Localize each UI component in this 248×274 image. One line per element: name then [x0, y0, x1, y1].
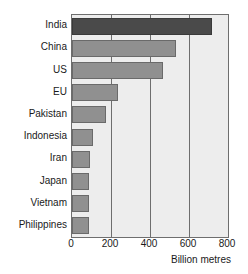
- bar-chart: IndiaChinaUSEUPakistanIndonesiaIranJapan…: [0, 0, 248, 274]
- bar: [72, 40, 176, 57]
- x-tick-label: 0: [68, 238, 74, 250]
- category-label: Japan: [0, 175, 67, 186]
- value-axis-labels: 0200400600800: [0, 238, 248, 252]
- category-axis-labels: IndiaChinaUSEUPakistanIndonesiaIranJapan…: [0, 14, 67, 236]
- x-axis-title: Billion metres: [0, 254, 231, 266]
- x-tick-label: 800: [219, 238, 236, 250]
- bar: [72, 195, 89, 212]
- bar-slot: [72, 170, 228, 192]
- bar-slot: [72, 82, 228, 104]
- category-label: China: [0, 41, 67, 52]
- bar: [72, 84, 118, 101]
- category-label: Philippines: [0, 219, 67, 230]
- x-tick-label: 200: [102, 238, 119, 250]
- bars-layer: [72, 15, 228, 237]
- bar-slot: [72, 15, 228, 37]
- bar: [72, 217, 89, 234]
- bar-slot: [72, 193, 228, 215]
- bar-slot: [72, 148, 228, 170]
- category-label: EU: [0, 86, 67, 97]
- category-label: Pakistan: [0, 108, 67, 119]
- category-label: India: [0, 19, 67, 30]
- bar: [72, 151, 90, 168]
- bar-slot: [72, 59, 228, 81]
- bar-slot: [72, 126, 228, 148]
- bar: [72, 18, 212, 35]
- bar: [72, 129, 93, 146]
- bar-slot: [72, 215, 228, 237]
- x-tick-label: 400: [141, 238, 158, 250]
- bar: [72, 173, 89, 190]
- bar: [72, 106, 106, 123]
- bar-slot: [72, 37, 228, 59]
- category-label: Iran: [0, 152, 67, 163]
- category-label: Indonesia: [0, 130, 67, 141]
- x-tick-label: 600: [180, 238, 197, 250]
- category-label: US: [0, 64, 67, 75]
- bar: [72, 62, 163, 79]
- category-label: Vietnam: [0, 197, 67, 208]
- bar-slot: [72, 104, 228, 126]
- plot-area: [71, 14, 229, 238]
